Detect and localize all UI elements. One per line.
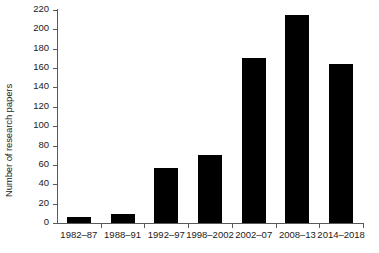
bar — [111, 214, 135, 223]
y-axis-tick-label: 180 — [0, 43, 53, 53]
y-axis-tick-label: 200 — [0, 23, 53, 33]
y-axis-tick-label: 160 — [0, 62, 53, 72]
y-axis-tick-mark — [53, 49, 57, 50]
y-axis-tick-mark — [53, 184, 57, 185]
y-axis-tick-label: 220 — [0, 4, 53, 14]
y-axis-tick-mark — [53, 146, 57, 147]
x-axis-line — [57, 223, 364, 224]
y-axis-tick-mark — [53, 107, 57, 108]
bar — [329, 64, 353, 223]
x-axis-tick-mark — [188, 224, 189, 228]
y-axis-tick-mark — [53, 126, 57, 127]
y-axis-tick-label: 0 — [0, 217, 53, 227]
y-axis-tick-label: 80 — [0, 140, 53, 150]
bar — [242, 58, 266, 223]
y-axis-tick-mark — [53, 87, 57, 88]
y-axis-tick-label: 60 — [0, 159, 53, 169]
y-axis-tick-mark — [53, 223, 57, 224]
y-axis-tick-mark — [53, 29, 57, 30]
y-axis-tick-label: 100 — [0, 120, 53, 130]
y-axis-tick-mark — [53, 68, 57, 69]
x-axis-tick-mark — [363, 224, 364, 228]
y-axis-tick-label: 20 — [0, 198, 53, 208]
x-axis-tick-label: 2014–2018 — [315, 230, 367, 240]
y-axis-tick-mark — [53, 10, 57, 11]
y-axis-tick-label: 40 — [0, 178, 53, 188]
x-axis-tick-mark — [232, 224, 233, 228]
y-axis-tick-mark — [53, 204, 57, 205]
plot-area — [57, 10, 363, 223]
y-axis-tick-mark — [53, 165, 57, 166]
bar — [67, 217, 91, 223]
x-axis-tick-mark — [144, 224, 145, 228]
y-axis-tick-label: 120 — [0, 101, 53, 111]
x-axis-tick-mark — [276, 224, 277, 228]
bar — [198, 155, 222, 223]
x-axis-tick-mark — [101, 224, 102, 228]
bar — [154, 168, 178, 223]
bar — [285, 15, 309, 223]
bar-chart: Number of research papers 02040608010012… — [0, 0, 379, 253]
x-axis-tick-mark — [319, 224, 320, 228]
y-axis-tick-label: 140 — [0, 81, 53, 91]
